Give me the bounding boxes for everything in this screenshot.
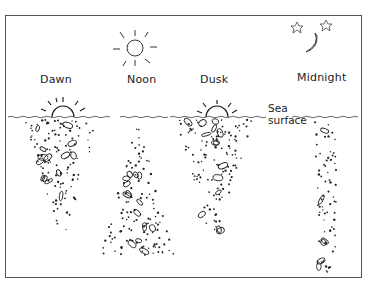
noon-plankton-cloud <box>102 128 174 255</box>
dawn-plankton-cloud <box>25 119 94 230</box>
dusk-plankton-cloud <box>179 117 252 235</box>
migration-diagram <box>0 0 375 290</box>
sea-label-line2: surface <box>268 114 307 126</box>
star-icon <box>291 20 332 33</box>
dawn-sun-icon <box>41 97 85 117</box>
sea-surface-label: Sea surface <box>268 102 307 126</box>
label-midnight: Midnight <box>297 71 346 84</box>
dusk-sun-icon <box>197 100 237 117</box>
sea-label-line1: Sea <box>268 102 307 114</box>
noon-sun-icon <box>113 30 157 66</box>
label-dawn: Dawn <box>40 73 72 86</box>
label-dusk: Dusk <box>200 73 228 86</box>
moon-icon <box>306 33 317 52</box>
label-noon: Noon <box>127 73 156 86</box>
midnight-plankton-cloud <box>314 121 337 273</box>
